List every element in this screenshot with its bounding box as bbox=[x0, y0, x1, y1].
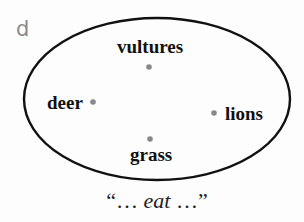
element-label-lions: lions bbox=[225, 104, 263, 123]
caption-trailing-ellipsis: … bbox=[170, 188, 198, 213]
point-vultures-icon bbox=[146, 64, 152, 70]
caption-close-quote: ” bbox=[198, 188, 208, 213]
diagram-canvas: d vultures deer lions grass “… eat …” bbox=[0, 0, 304, 222]
caption-leading-ellipsis: … bbox=[116, 188, 144, 213]
caption-open-quote: “ bbox=[106, 188, 116, 213]
element-label-grass: grass bbox=[130, 145, 172, 164]
point-lions-icon bbox=[211, 110, 217, 116]
relation-caption: “… eat …” bbox=[0, 190, 304, 212]
point-deer-icon bbox=[90, 99, 96, 105]
element-label-vultures: vultures bbox=[117, 37, 183, 56]
caption-verb: eat bbox=[144, 188, 171, 213]
point-grass-icon bbox=[147, 136, 153, 142]
element-label-deer: deer bbox=[47, 93, 83, 112]
